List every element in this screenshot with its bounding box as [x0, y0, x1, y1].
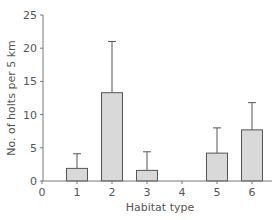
y-tick-label: 5: [30, 142, 37, 155]
y-tick-label: 10: [23, 109, 37, 122]
y-axis-label: No. of holts per 5 km: [5, 40, 18, 156]
bar-habitat-2: [102, 93, 123, 181]
x-tick-label: 3: [144, 186, 151, 199]
y-tick-label: 20: [23, 42, 37, 55]
y-tick-label: 25: [23, 9, 37, 22]
x-tick-label: 5: [214, 186, 221, 199]
bar-habitat-1: [67, 168, 88, 181]
x-tick-label: 6: [249, 186, 256, 199]
bar-chart: 05101520250123456 Habitat type No. of ho…: [0, 0, 278, 220]
bars-group: [67, 42, 263, 181]
x-axis-label: Habitat type: [126, 201, 195, 214]
bar-habitat-5: [207, 153, 228, 181]
x-tick-label: 2: [109, 186, 116, 199]
x-tick-label: 1: [74, 186, 81, 199]
y-tick-label: 0: [30, 175, 37, 188]
bar-habitat-6: [242, 130, 263, 181]
x-tick-label: 0: [39, 186, 46, 199]
bar-habitat-3: [137, 170, 158, 181]
x-tick-label: 4: [179, 186, 186, 199]
y-tick-label: 15: [23, 75, 37, 88]
